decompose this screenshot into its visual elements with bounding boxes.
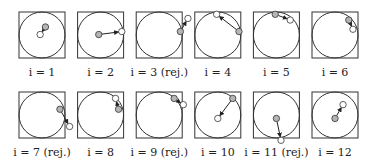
current-point — [115, 106, 121, 112]
panel-label: i = 11 (rej.) — [244, 146, 308, 159]
panel-label: i = 8 — [87, 146, 114, 159]
step-arrow — [220, 101, 231, 116]
panel: i = 5 — [253, 11, 299, 79]
panel: i = 9 (rej.) — [130, 92, 187, 159]
current-point — [177, 28, 183, 34]
current-point — [171, 95, 177, 101]
proposed-point — [350, 26, 356, 32]
step-arrow — [337, 107, 342, 115]
step-arrow — [278, 15, 287, 18]
proposed-point — [287, 17, 293, 23]
panel: i = 1 — [19, 12, 65, 79]
panel-label: i = 2 — [87, 66, 114, 79]
proposed-point — [215, 115, 221, 121]
current-point — [96, 31, 102, 37]
proposed-point — [185, 15, 191, 21]
current-point — [42, 24, 48, 30]
unit-circle — [195, 12, 241, 58]
panel: i = 12 — [312, 92, 358, 159]
proposed-point — [119, 28, 125, 34]
unit-circle — [19, 92, 65, 138]
step-arrow — [116, 102, 117, 107]
panel-label: i = 4 — [204, 66, 231, 79]
panel: i = 10 — [195, 92, 241, 159]
step-arrow — [350, 23, 352, 26]
panel-label: i = 7 (rej.) — [13, 146, 70, 159]
panel-label: i = 10 — [201, 146, 235, 159]
proposed-point — [213, 11, 219, 17]
current-point — [332, 115, 338, 121]
step-arrow — [42, 30, 44, 32]
step-arrow — [102, 32, 119, 34]
unit-circle — [136, 12, 182, 58]
proposed-point — [37, 31, 43, 37]
current-point — [230, 95, 236, 101]
panel-label: i = 1 — [29, 66, 56, 79]
panel: i = 2 — [78, 12, 125, 79]
proposed-point — [112, 95, 118, 101]
panel: i = 7 (rej.) — [13, 92, 73, 159]
proposed-point — [66, 123, 72, 129]
panel-label: i = 6 — [322, 66, 349, 79]
panel: i = 11 (rej.) — [244, 92, 308, 159]
panel-label: i = 3 (rej.) — [130, 66, 187, 79]
proposed-point — [278, 137, 284, 143]
step-arrow — [277, 122, 280, 138]
figure: i = 1i = 2i = 3 (rej.)i = 4i = 5i = 6i =… — [0, 0, 380, 163]
panel: i = 4 — [195, 11, 242, 79]
current-point — [346, 17, 352, 23]
current-point — [272, 11, 278, 17]
proposed-point — [180, 101, 186, 107]
panel-label: i = 12 — [318, 146, 352, 159]
panel-label: i = 5 — [263, 66, 290, 79]
current-point — [273, 115, 279, 121]
current-point — [57, 106, 63, 112]
panel: i = 3 (rej.) — [130, 12, 191, 79]
current-point — [236, 28, 242, 34]
proposed-point — [340, 101, 346, 107]
panel-label: i = 9 (rej.) — [130, 146, 187, 159]
panel: i = 8 — [78, 92, 124, 159]
panel: i = 6 — [312, 12, 358, 79]
